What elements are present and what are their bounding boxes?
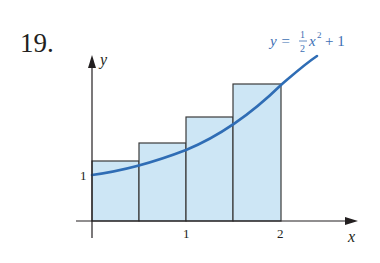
x-axis-label: x bbox=[347, 228, 355, 245]
rectangle-2 bbox=[139, 143, 186, 221]
x-tick-1: 1 bbox=[183, 226, 190, 241]
x-tick-2: 2 bbox=[277, 226, 284, 241]
equation-frac-den: 2 bbox=[300, 43, 305, 54]
equation-label: y = 1 2 x 2 + 1 bbox=[268, 29, 345, 54]
equation-frac-num: 1 bbox=[300, 29, 305, 40]
y-tick-1: 1 bbox=[80, 168, 87, 183]
riemann-sum-chart: y x 1 2 1 y = 1 2 x 2 + 1 bbox=[0, 0, 380, 263]
equation-lhs: y = bbox=[268, 33, 291, 49]
y-axis-arrow-icon bbox=[88, 55, 96, 68]
equation-var: x bbox=[308, 33, 316, 49]
equation-rhs: + 1 bbox=[325, 33, 345, 49]
rectangle-4 bbox=[233, 84, 281, 221]
x-axis-arrow-icon bbox=[345, 217, 358, 225]
rectangle-3 bbox=[186, 117, 233, 221]
y-axis-label: y bbox=[98, 51, 108, 69]
equation-exponent: 2 bbox=[317, 30, 322, 40]
riemann-rectangles bbox=[92, 84, 281, 221]
